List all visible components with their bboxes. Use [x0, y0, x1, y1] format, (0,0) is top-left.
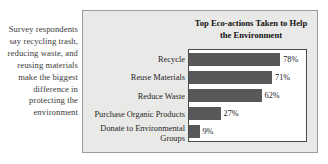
bar-value-label: 9% [203, 127, 214, 136]
bar-value-label: 27% [224, 109, 239, 118]
bar-series: 78% 71% 62% 27% 9% [189, 50, 306, 141]
category-row: Donate to Environmental Groups [84, 124, 185, 143]
category-label: Purchase Organic Products [94, 110, 185, 120]
bar-row: 78% [189, 50, 306, 68]
bar [189, 53, 280, 66]
bar-row: 9% [189, 123, 306, 141]
category-axis-labels: Recycle Reuse Materials Reduce Waste Pur… [84, 50, 185, 143]
bar-value-label: 78% [283, 55, 298, 64]
bar-row: 71% [189, 68, 306, 86]
category-row: Reuse Materials [84, 69, 185, 88]
chart-panel: Top Eco-actions Taken to Help the Enviro… [82, 10, 318, 153]
survey-caption: Survey respondents say recycling trash, … [2, 24, 78, 119]
category-label: Reduce Waste [138, 92, 185, 102]
bar-value-label: 62% [265, 91, 280, 100]
bar [189, 125, 200, 138]
category-row: Recycle [84, 50, 185, 69]
category-label: Donate to Environmental Groups [100, 124, 185, 143]
bar [189, 89, 262, 102]
bar-value-label: 71% [275, 73, 290, 82]
category-label: Recycle [158, 55, 185, 65]
bar-row: 62% [189, 86, 306, 104]
category-row: Reduce Waste [84, 87, 185, 106]
bar [189, 71, 272, 84]
chart-title: Top Eco-actions Taken to Help the Enviro… [189, 18, 313, 41]
plot-area: Recycle Reuse Materials Reduce Waste Pur… [188, 49, 307, 142]
category-row: Purchase Organic Products [84, 106, 185, 125]
category-label: Reuse Materials [131, 73, 185, 83]
bar-row: 27% [189, 105, 306, 123]
bar [189, 107, 221, 120]
